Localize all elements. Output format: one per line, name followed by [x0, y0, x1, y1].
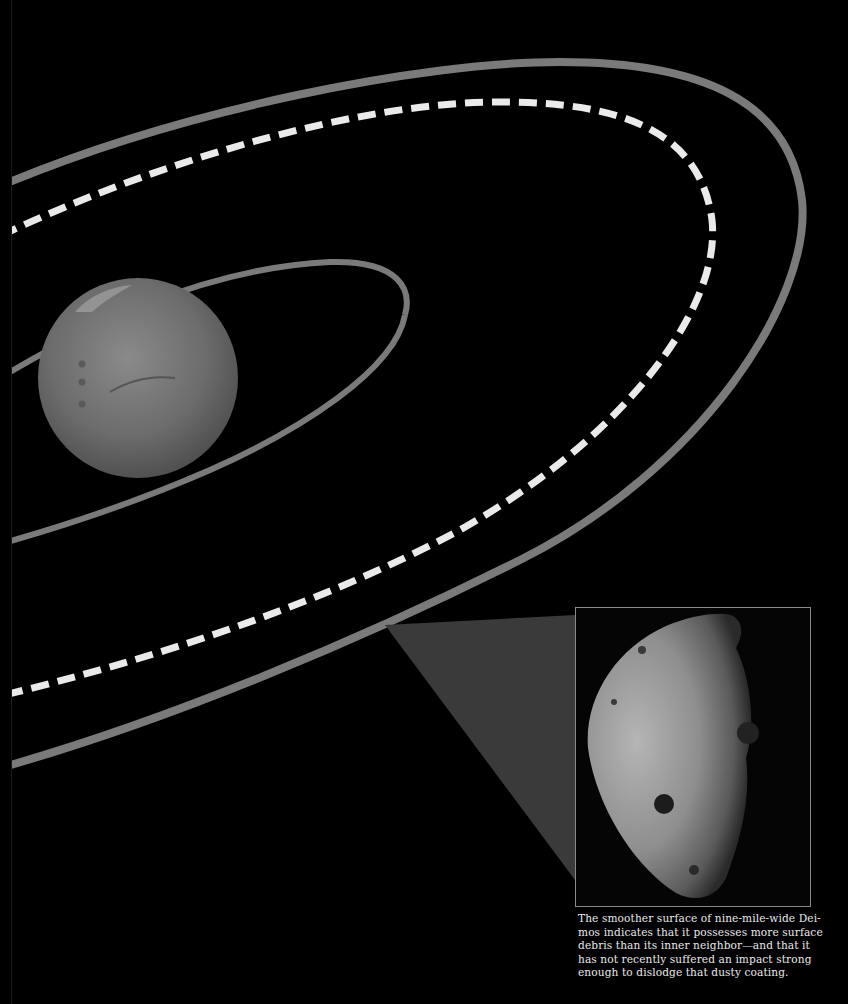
- deimos-inset-photo: [575, 607, 811, 907]
- crater: [689, 865, 699, 875]
- figure-page: The smoother surface of nine-mile-wide D…: [0, 0, 848, 1004]
- caption-line: The smoother surface of nine-mile-wide D…: [578, 912, 843, 926]
- crater: [611, 699, 617, 705]
- caption-line: debris than its inner neighbor—and that …: [578, 939, 843, 953]
- crater: [737, 722, 759, 744]
- deimos-moon: [588, 614, 752, 898]
- caption-line: mos indicates that it possesses more sur…: [578, 926, 843, 940]
- inset-pointer-wedge: [385, 615, 575, 880]
- crater: [638, 646, 646, 654]
- caption-line: enough to dislodge that dusty coating.: [578, 966, 843, 980]
- mars-globe: [38, 278, 238, 478]
- figure-caption: The smoother surface of nine-mile-wide D…: [578, 912, 843, 980]
- caption-line: has not recently suffered an impact stro…: [578, 953, 843, 967]
- crater: [654, 794, 674, 814]
